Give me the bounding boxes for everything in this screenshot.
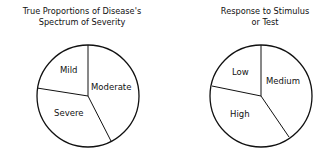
slice-label-medium: Medium	[266, 76, 300, 86]
disease-severity-pie-chart: True Proportions of Disease's Spectrum o…	[0, 0, 164, 152]
slice-label-moderate: Moderate	[91, 82, 131, 92]
slice-label-severe: Severe	[54, 108, 83, 118]
slice-label-high: High	[230, 109, 250, 119]
pie-graphic	[0, 0, 164, 152]
slice-label-low: Low	[232, 67, 249, 77]
slice-label-mild: Mild	[60, 65, 77, 75]
response-stimulus-pie-chart: Response to Stimulus or Test Low Medium …	[164, 0, 328, 152]
